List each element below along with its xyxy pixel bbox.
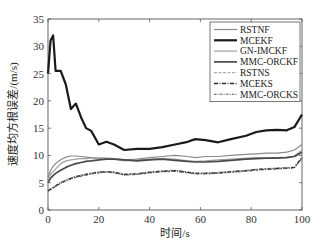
y-tick-label: 5 (39, 177, 45, 189)
y-tick-label: 20 (33, 95, 45, 107)
y-tick-label: 30 (33, 40, 45, 52)
y-tick-label: 0 (39, 204, 45, 216)
x-tick-label: 60 (195, 213, 207, 225)
y-tick-label: 10 (33, 149, 45, 161)
y-tick-label: 15 (33, 122, 45, 134)
y-axis-title: 速度均方根误差/(m/s) (6, 62, 20, 166)
y-tick-label: 35 (33, 13, 45, 25)
legend-label: RSTNS (240, 68, 270, 78)
legend-label: GN-IMCKF (240, 46, 287, 56)
legend-label: MCEKS (240, 79, 273, 89)
x-tick-label: 20 (93, 213, 105, 225)
legend: RSTNFMCEKFGN-IMCKFMMC-ORCKFRSTNSMCEKSMMC… (210, 22, 300, 102)
x-tick-label: 40 (144, 213, 156, 225)
line-chart: 02040608010005101520253035 RSTNFMCEKFGN-… (0, 0, 326, 245)
x-tick-label: 0 (45, 213, 51, 225)
y-tick-label: 25 (33, 68, 45, 80)
series-line-mceks (48, 158, 302, 191)
series-line-mmc-orcks (48, 158, 302, 191)
x-tick-label: 80 (246, 213, 258, 225)
legend-label: MMC-ORCKS (240, 90, 298, 100)
legend-label: RSTNF (240, 25, 270, 35)
legend-label: MCEKF (240, 36, 273, 46)
x-axis-title: 时间/s (160, 227, 189, 239)
legend-label: MMC-ORCKF (240, 57, 298, 67)
x-tick-label: 100 (294, 213, 311, 225)
